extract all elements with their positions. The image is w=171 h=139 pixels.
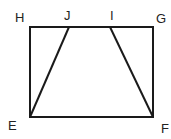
label-i: I bbox=[110, 8, 114, 23]
segment-if bbox=[110, 27, 153, 117]
label-g: G bbox=[156, 11, 166, 26]
label-j: J bbox=[64, 8, 71, 23]
segment-ej bbox=[30, 27, 69, 117]
label-e: E bbox=[8, 118, 17, 133]
label-f: F bbox=[161, 121, 169, 136]
geometry-diagram: H J I G E F bbox=[0, 0, 171, 139]
label-h: H bbox=[15, 10, 24, 25]
